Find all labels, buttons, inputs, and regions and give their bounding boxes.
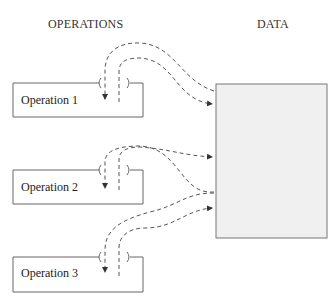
- flow-data-to-op1: [105, 43, 214, 99]
- operation-2-label: Operation 2: [21, 180, 78, 195]
- operation-1-label: Operation 1: [21, 93, 78, 108]
- operation-3-label: Operation 3: [21, 266, 78, 281]
- flow-op2-to-data: [119, 147, 212, 190]
- flow-op1-to-data: [119, 58, 212, 104]
- flow-data-to-op3: [105, 193, 214, 272]
- flow-op3-to-data: [119, 208, 212, 276]
- data-store-box: [216, 84, 327, 238]
- diagram-canvas: [0, 0, 336, 302]
